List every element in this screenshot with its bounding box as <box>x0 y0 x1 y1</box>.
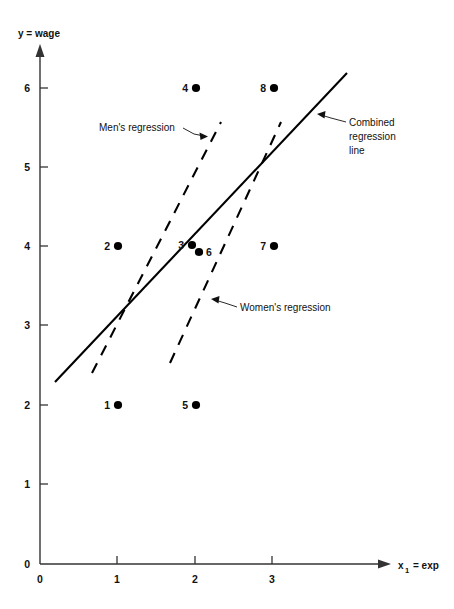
y-tick-marks <box>40 88 48 484</box>
y-tick-label-2: 2 <box>24 399 30 411</box>
x-axis-title-rest: = exp <box>413 560 439 571</box>
womens-regression-annotation: Women's regression <box>211 296 331 313</box>
data-point-6: 6 <box>195 246 212 258</box>
womens-regression-label: Women's regression <box>240 302 331 313</box>
y-tick-label-6: 6 <box>24 82 30 94</box>
mens-regression-arrowhead <box>200 133 209 141</box>
combined-regression-label-line3: line <box>349 145 365 156</box>
y-tick-labels: 6 5 4 3 2 1 0 <box>24 82 30 570</box>
data-dot-3 <box>188 241 196 249</box>
y-tick-label-5: 5 <box>24 161 30 173</box>
data-point-4: 4 <box>182 82 200 94</box>
combined-regression-line <box>55 73 347 382</box>
data-point-5: 5 <box>182 399 200 411</box>
data-point-7: 7 <box>260 240 278 252</box>
data-dot-4 <box>192 84 200 92</box>
data-dot-7 <box>270 242 278 250</box>
x-tick-label-2: 2 <box>192 573 198 585</box>
x-tick-marks <box>117 556 272 564</box>
combined-regression-label-line2: regression <box>349 131 396 142</box>
regression-scatter-chart: 6 5 4 3 2 1 0 0 1 2 3 y = wage x 1 = exp <box>0 0 454 609</box>
x-tick-label-0: 0 <box>37 573 43 585</box>
data-point-8: 8 <box>260 82 278 94</box>
y-tick-label-1: 1 <box>24 478 30 490</box>
mens-regression-label: Men's regression <box>99 122 175 133</box>
data-point-2: 2 <box>104 240 122 252</box>
data-point-label-4: 4 <box>182 82 188 94</box>
data-dot-8 <box>270 84 278 92</box>
data-point-label-5: 5 <box>182 399 188 411</box>
data-point-label-3: 3 <box>178 239 184 251</box>
x-axis-title-main: x <box>398 560 404 571</box>
data-point-label-1: 1 <box>104 399 110 411</box>
data-point-label-6: 6 <box>206 246 212 258</box>
mens-regression-annotation: Men's regression <box>99 122 208 140</box>
combined-regression-label-line1: Combined <box>349 117 395 128</box>
y-tick-label-4: 4 <box>24 240 30 252</box>
x-axis-title-subscript: 1 <box>405 566 409 575</box>
data-dot-5 <box>192 401 200 409</box>
x-tick-labels: 0 1 2 3 <box>37 573 275 585</box>
x-axis-arrowhead <box>378 560 391 569</box>
womens-regression-arrowhead <box>211 296 220 304</box>
data-dot-6 <box>195 248 203 256</box>
combined-regression-annotation: Combined regression line <box>317 111 396 156</box>
data-dot-1 <box>114 401 122 409</box>
data-point-label-2: 2 <box>104 240 110 252</box>
combined-regression-arrowhead <box>317 111 326 119</box>
data-point-1: 1 <box>104 399 122 411</box>
mens-regression-line <box>92 122 221 373</box>
x-tick-label-3: 3 <box>269 573 275 585</box>
x-axis <box>40 560 391 569</box>
y-axis-title: y = wage <box>18 28 60 39</box>
y-axis-arrowhead <box>36 44 45 57</box>
y-tick-label-0: 0 <box>24 558 30 570</box>
x-tick-label-1: 1 <box>114 573 120 585</box>
data-point-label-8: 8 <box>260 82 266 94</box>
x-axis-title: x 1 = exp <box>398 560 439 575</box>
y-tick-label-3: 3 <box>24 319 30 331</box>
figure-page: 6 5 4 3 2 1 0 0 1 2 3 y = wage x 1 = exp <box>0 0 454 609</box>
data-point-label-7: 7 <box>260 240 266 252</box>
data-dot-2 <box>114 242 122 250</box>
y-axis <box>36 44 45 564</box>
